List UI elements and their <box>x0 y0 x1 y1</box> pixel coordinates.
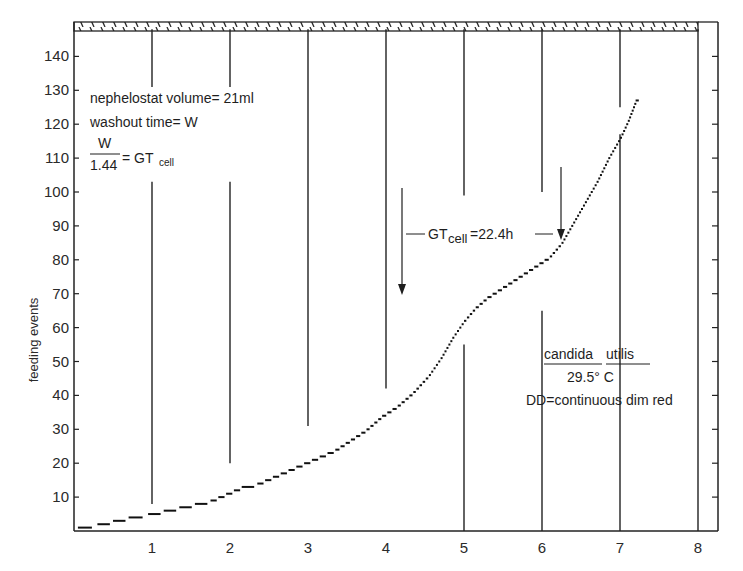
x-tick-label: 6 <box>538 539 546 556</box>
arrow-right-head-icon <box>557 229 565 240</box>
y-tick-label: 70 <box>52 285 69 302</box>
setup-annotation: nephelostat volume= 21ml washout time= W… <box>89 90 254 173</box>
y-tick-label: 120 <box>44 115 69 132</box>
fraction-gt-subscript: cell <box>159 157 174 168</box>
gt-subscript: cell <box>448 231 468 246</box>
species-name: utilis <box>606 346 634 362</box>
x-tick-label: 8 <box>694 539 702 556</box>
x-tick-labels: 12345678 <box>148 539 702 556</box>
y-tick-label: 40 <box>52 386 69 403</box>
washout-time-text: washout time= W <box>89 114 199 130</box>
organism-annotation: candida utilis 29.5° C DD=continuous dim… <box>526 346 673 408</box>
feeding-events-chart: 102030405060708090100110120130140 123456… <box>0 0 743 571</box>
x-tick-label: 1 <box>148 539 156 556</box>
y-tick-label: 20 <box>52 454 69 471</box>
arrow-left-head-icon <box>398 284 406 295</box>
y-tick-label: 130 <box>44 81 69 98</box>
y-tick-label: 10 <box>52 488 69 505</box>
x-tick-label: 3 <box>304 539 312 556</box>
y-tick-label: 100 <box>44 183 69 200</box>
x-tick-label: 4 <box>382 539 390 556</box>
x-tick-label: 5 <box>460 539 468 556</box>
y-tick-label: 30 <box>52 420 69 437</box>
fraction-equals-gt: = GT <box>122 150 154 166</box>
y-tick-label: 90 <box>52 217 69 234</box>
y-tick-labels: 102030405060708090100110120130140 <box>44 47 69 505</box>
fraction-numerator: W <box>98 135 112 151</box>
species-genus: candida <box>544 346 593 362</box>
gt-value: =22.4h <box>470 226 513 242</box>
y-axis-label: feeding events <box>26 297 41 382</box>
y-tick-label: 80 <box>52 251 69 268</box>
fraction-denominator: 1.44 <box>90 157 117 173</box>
nephelostat-volume-text: nephelostat volume= 21ml <box>90 90 254 106</box>
dd-condition-text: DD=continuous dim red <box>526 392 673 408</box>
y-tick-label: 110 <box>45 149 69 166</box>
y-tick-label: 140 <box>44 47 69 64</box>
gt-label: GT <box>428 226 448 242</box>
y-tick-label: 60 <box>52 319 69 336</box>
generation-time-annotation: GT cell =22.4h <box>398 167 565 295</box>
x-tick-label: 7 <box>616 539 624 556</box>
y-tick-label: 50 <box>52 353 69 370</box>
temperature-text: 29.5° C <box>567 369 614 385</box>
x-tick-label: 2 <box>226 539 234 556</box>
